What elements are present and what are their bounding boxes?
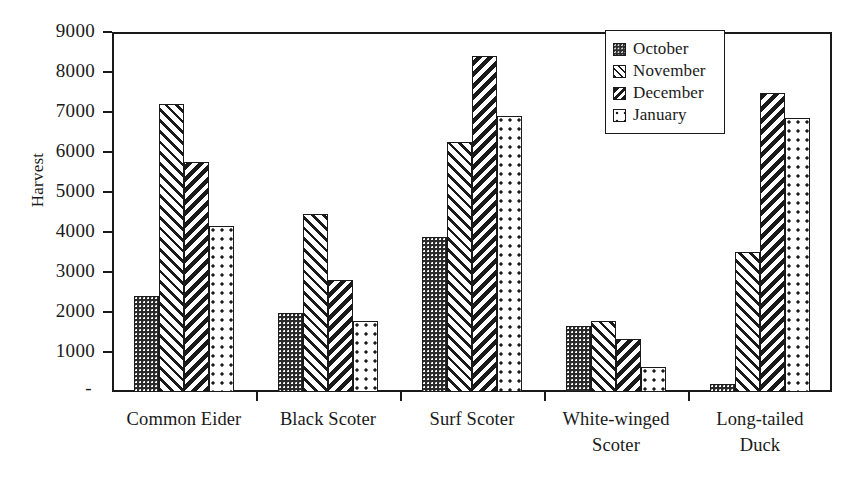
legend-item-november[interactable]: November: [613, 60, 716, 82]
november-swatch-icon: [613, 65, 626, 78]
x-axis-tick-mark: [688, 392, 690, 401]
bar-january-white-winged-scoter: [641, 367, 666, 392]
y-axis-tick-mark: [103, 351, 112, 353]
y-axis-tick-label: 7000: [56, 100, 95, 122]
bar-october-long-tailed-duck: [710, 384, 735, 392]
bar-october-common-eider: [134, 296, 159, 392]
bar-november-black-scoter: [303, 214, 328, 392]
x-axis-label-line: Scoter: [544, 432, 688, 458]
x-axis-label-surf-scoter: Surf Scoter: [400, 406, 544, 432]
legend-item-label: October: [633, 39, 688, 59]
bar-group: [256, 32, 400, 392]
x-axis-label-line: Long-tailed: [688, 406, 832, 432]
bar-group: [400, 32, 544, 392]
legend-item-label: January: [633, 105, 687, 125]
legend-item-december[interactable]: December: [613, 82, 716, 104]
january-swatch-icon: [613, 109, 626, 122]
y-axis-tick-mark: [103, 311, 112, 313]
y-axis-tick-mark: [103, 231, 112, 233]
bar-december-common-eider: [184, 162, 209, 392]
bar-january-black-scoter: [353, 321, 378, 392]
legend-item-label: December: [633, 83, 704, 103]
x-axis-label-long-tailed-duck: Long-tailedDuck: [688, 406, 832, 458]
bar-chart: Harvest 90008000700060005000400030002000…: [0, 0, 858, 478]
bar-group: [112, 32, 256, 392]
bar-january-surf-scoter: [497, 116, 522, 392]
y-axis-tick-label: 3000: [56, 260, 95, 282]
y-axis-tick-label: 2000: [56, 300, 95, 322]
legend-item-january[interactable]: January: [613, 104, 716, 126]
x-axis-tick-mark: [400, 392, 402, 401]
bar-january-long-tailed-duck: [785, 118, 810, 392]
x-axis-label-line: Black Scoter: [256, 406, 400, 432]
x-axis-label-common-eider: Common Eider: [112, 406, 256, 432]
bar-november-surf-scoter: [447, 142, 472, 392]
bar-october-surf-scoter: [422, 237, 447, 392]
y-axis-tick-mark: [103, 271, 112, 273]
x-axis-tick-labels: Common EiderBlack ScoterSurf ScoterWhite…: [112, 406, 832, 472]
x-axis-tick-mark: [256, 392, 258, 401]
y-axis-tick-label: 6000: [56, 140, 95, 162]
y-axis-tick-mark: [103, 111, 112, 113]
x-axis-tick-mark: [544, 392, 546, 401]
october-swatch-icon: [613, 43, 626, 56]
bar-january-common-eider: [209, 226, 234, 392]
y-axis-tick-mark: [103, 191, 112, 193]
y-axis-tick-label: -: [85, 377, 92, 399]
y-axis-tick-label: 4000: [56, 220, 95, 242]
bar-october-white-winged-scoter: [566, 326, 591, 392]
bar-december-long-tailed-duck: [760, 93, 785, 392]
bar-october-black-scoter: [278, 313, 303, 392]
x-axis-label-line: Duck: [688, 432, 832, 458]
bar-december-white-winged-scoter: [616, 339, 641, 392]
x-axis-label-line: White-winged: [544, 406, 688, 432]
bar-december-black-scoter: [328, 280, 353, 392]
december-swatch-icon: [613, 87, 626, 100]
y-axis-tick-label: 9000: [56, 20, 95, 42]
x-axis-ticks: [112, 392, 832, 402]
y-axis-tick-label: 8000: [56, 60, 95, 82]
y-axis-tick-label: 5000: [56, 180, 95, 202]
bar-november-long-tailed-duck: [735, 252, 760, 392]
y-axis-tick-mark: [103, 151, 112, 153]
bar-november-common-eider: [159, 104, 184, 392]
legend-item-label: November: [633, 61, 706, 81]
x-axis-label-black-scoter: Black Scoter: [256, 406, 400, 432]
y-axis-tick-labels: 900080007000600050004000300020001000-: [0, 32, 112, 392]
legend-item-october[interactable]: October: [613, 38, 716, 60]
x-axis-label-line: Common Eider: [112, 406, 256, 432]
x-axis-label-white-winged-scoter: White-wingedScoter: [544, 406, 688, 458]
y-axis-tick-mark: [103, 71, 112, 73]
bar-november-white-winged-scoter: [591, 321, 616, 392]
chart-legend: OctoberNovemberDecemberJanuary: [605, 30, 725, 134]
x-axis-label-line: Surf Scoter: [400, 406, 544, 432]
y-axis-tick-mark: [103, 31, 112, 33]
bar-december-surf-scoter: [472, 56, 497, 392]
y-axis-tick-label: 1000: [56, 340, 95, 362]
